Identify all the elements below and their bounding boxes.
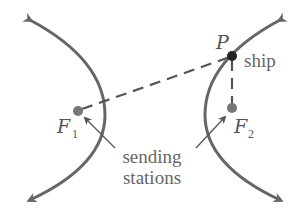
label-stations: stations [123, 167, 181, 188]
label-f2-subscript: 2 [248, 127, 254, 141]
label-f2: F [233, 115, 248, 137]
focus-1-dot [73, 106, 83, 116]
hyperbola-diagram: P ship F 1 F 2 sending stations [0, 0, 306, 218]
callout-arrow-f1 [85, 118, 115, 148]
left-hyperbola-branch [30, 20, 105, 200]
label-p: P [215, 31, 230, 53]
label-f1-subscript: 1 [72, 127, 78, 141]
dashed-line-f1-to-p [82, 57, 230, 109]
focus-2-dot [227, 103, 237, 113]
label-sending: sending [122, 146, 182, 167]
label-f1: F [56, 115, 71, 137]
label-ship: ship [244, 50, 276, 71]
